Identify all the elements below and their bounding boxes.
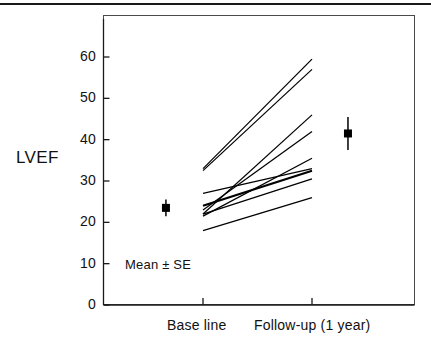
patient-lines-group bbox=[203, 59, 312, 231]
patient-line-patient-4 bbox=[203, 131, 312, 210]
error-bar-mean-marker bbox=[162, 204, 170, 212]
patient-line-patient-1 bbox=[203, 59, 312, 169]
patient-line-patient-9 bbox=[203, 198, 312, 231]
axes-group bbox=[104, 19, 415, 305]
error-bar-followup-mean bbox=[344, 117, 352, 150]
patient-line-patient-3 bbox=[203, 115, 312, 214]
error-bar-baseline-mean bbox=[162, 200, 170, 217]
patient-line-patient-2 bbox=[203, 69, 312, 170]
patient-line-patient-8 bbox=[203, 179, 312, 214]
error-bar-mean-marker bbox=[344, 129, 352, 137]
chart-canvas bbox=[0, 0, 431, 348]
figure-root: LVEF Mean ± SE 0102030405060 Base lineFo… bbox=[0, 0, 431, 348]
error-bars-group bbox=[162, 117, 352, 216]
patient-line-patient-7 bbox=[203, 171, 312, 206]
patient-line-patient-6 bbox=[203, 169, 312, 194]
